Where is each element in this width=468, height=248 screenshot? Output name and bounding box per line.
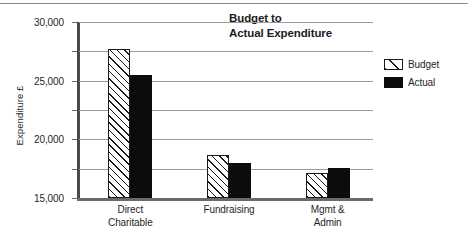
bar-budget-0 (108, 49, 130, 198)
y-axis-tick-label: 30,000 (34, 17, 64, 28)
y-axis-tick: 0 (72, 198, 77, 199)
bar-actual-2 (328, 168, 350, 199)
y-axis-tick: 30,000 (72, 22, 77, 23)
y-axis-tick: 20,000 (72, 81, 77, 82)
legend-item-actual: Actual (384, 75, 439, 90)
y-axis-tick: 15,000 (72, 110, 77, 111)
y-axis-tick-label: 15,000 (34, 193, 64, 204)
y-axis-tick-label: 20,000 (34, 134, 64, 145)
top-divider (0, 3, 468, 4)
chart-figure: Budget to Actual Expenditure Expenditure… (0, 0, 468, 248)
y-axis-line (77, 22, 80, 200)
gridline (79, 22, 373, 23)
chart-legend: Budget Actual (384, 57, 439, 93)
x-axis-category-label: Mgmt & Admin (311, 204, 345, 229)
legend-label-budget: Budget (408, 59, 439, 70)
bar-actual-1 (229, 163, 251, 198)
bar-budget-1 (207, 155, 229, 198)
legend-swatch-actual-icon (384, 77, 403, 88)
legend-label-actual: Actual (408, 77, 435, 88)
x-axis-category-label: Fundraising (203, 204, 254, 217)
y-axis-tick: 5,000 (72, 169, 77, 170)
legend-swatch-budget-icon (384, 59, 403, 70)
x-axis-category-label: Direct Charitable (108, 204, 153, 229)
y-axis-tick-label: 25,000 (34, 75, 64, 86)
bar-budget-2 (306, 173, 328, 198)
legend-item-budget: Budget (384, 57, 439, 72)
x-axis-line (77, 198, 373, 201)
y-axis-title: Expenditure £ (14, 66, 25, 166)
plot-area: 30,00025,00020,00015,00010,0005,0000 Dir… (77, 22, 373, 200)
bar-actual-0 (130, 75, 152, 198)
y-axis-tick: 25,000 (72, 51, 77, 52)
y-axis-tick: 10,000 (72, 139, 77, 140)
